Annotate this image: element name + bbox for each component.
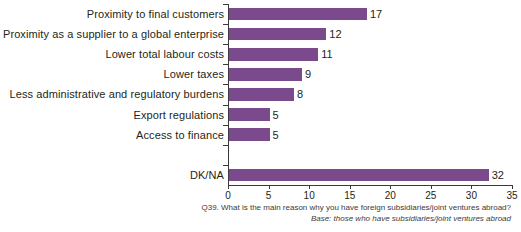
bar-fill	[229, 169, 489, 182]
bar-fill	[229, 108, 270, 121]
x-axis-tick-label: 30	[466, 190, 477, 201]
x-axis-tick-label: 20	[385, 190, 396, 201]
category-label: Proximity to final customers	[87, 4, 224, 24]
bar-value-label: 5	[273, 129, 279, 141]
chart-row	[0, 145, 521, 165]
category-label: Lower taxes	[164, 64, 224, 84]
bar: 17	[229, 8, 367, 21]
x-axis-tick-label: 10	[304, 190, 315, 201]
y-axis-tick	[223, 145, 228, 146]
x-axis-tick	[350, 185, 351, 189]
bar-chart: Proximity to final customers17Proximity …	[0, 0, 521, 232]
bar-value-label: 32	[492, 169, 504, 181]
bar-fill	[229, 28, 326, 41]
bar: 8	[229, 88, 294, 101]
bar-fill	[229, 128, 270, 141]
category-label: DK/NA	[190, 165, 224, 185]
chart-row: Proximity as a supplier to a global ente…	[0, 24, 521, 44]
bar: 11	[229, 48, 318, 61]
category-label: Less administrative and regulatory burde…	[9, 84, 224, 104]
bar-value-label: 5	[273, 109, 279, 121]
footnotes: Q39. What is the main reason why you hav…	[0, 202, 513, 224]
bar: 5	[229, 128, 270, 141]
category-label: Proximity as a supplier to a global ente…	[3, 24, 224, 44]
chart-row: Lower taxes9	[0, 64, 521, 84]
x-axis-tick-label: 35	[506, 190, 517, 201]
x-axis-tick	[471, 185, 472, 189]
bar: 12	[229, 28, 326, 41]
footnote-base: Base: those who have subsidiaries/joint …	[0, 213, 513, 224]
x-axis-tick-label: 0	[225, 190, 231, 201]
x-axis-tick	[512, 185, 513, 189]
x-axis-tick	[228, 185, 229, 189]
x-axis-tick-label: 25	[425, 190, 436, 201]
bar-value-label: 8	[297, 88, 303, 100]
category-label: Lower total labour costs	[105, 44, 224, 64]
bar-value-label: 11	[321, 48, 332, 60]
x-axis-tick	[269, 185, 270, 189]
bar-fill	[229, 8, 367, 21]
chart-row: Export regulations5	[0, 105, 521, 125]
category-label: Export regulations	[134, 105, 224, 125]
bar-fill	[229, 48, 318, 61]
chart-row: Access to finance5	[0, 125, 521, 145]
bar-fill	[229, 88, 294, 101]
x-axis-tick	[431, 185, 432, 189]
chart-row: Less administrative and regulatory burde…	[0, 84, 521, 104]
footnote-question: Q39. What is the main reason why you hav…	[0, 202, 513, 213]
x-axis-tick-label: 15	[344, 190, 355, 201]
chart-rows: Proximity to final customers17Proximity …	[0, 4, 521, 185]
bar: 9	[229, 68, 302, 81]
bar: 5	[229, 108, 270, 121]
x-axis-tick-label: 5	[266, 190, 272, 201]
chart-row: Lower total labour costs11	[0, 44, 521, 64]
bar-fill	[229, 68, 302, 81]
bar-value-label: 12	[329, 28, 341, 40]
x-axis-tick	[309, 185, 310, 189]
bar: 32	[229, 169, 489, 182]
chart-row: Proximity to final customers17	[0, 4, 521, 24]
bar-value-label: 9	[305, 68, 311, 80]
x-axis-tick	[390, 185, 391, 189]
chart-row: DK/NA32	[0, 165, 521, 185]
category-label: Access to finance	[136, 125, 224, 145]
bar-value-label: 17	[370, 8, 382, 20]
